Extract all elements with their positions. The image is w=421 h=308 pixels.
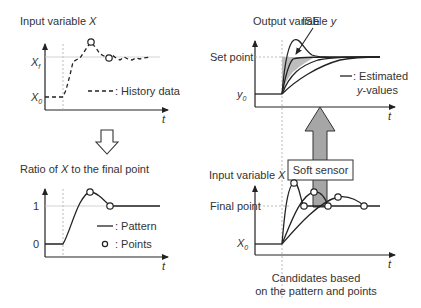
points-legend-label: : Points xyxy=(115,238,152,250)
candidate-peak-point xyxy=(311,189,317,195)
peak-point xyxy=(87,189,93,195)
down-arrow-icon xyxy=(96,130,118,154)
history-panel: Input variable X t Xf X0 : History data xyxy=(20,15,181,125)
candidate-curve-fast xyxy=(282,183,380,244)
candidate-peak-point xyxy=(335,194,341,200)
candidate-peak-point xyxy=(291,180,297,186)
x0-label: X0 xyxy=(30,91,42,105)
tick-1: 1 xyxy=(33,200,39,212)
history-title: Input variable X xyxy=(20,15,97,27)
candidates-caption-line2: on the pattern and points xyxy=(255,285,377,297)
x-axis-label: t xyxy=(388,110,392,122)
x0-label: X0 xyxy=(236,237,248,251)
settle-point xyxy=(107,203,113,209)
ratio-panel: Ratio of X to the final point t 1 0 : Pa… xyxy=(20,163,168,272)
candidate-settle-point xyxy=(301,203,307,209)
x-axis-label: t xyxy=(388,258,392,270)
x-axis-label: t xyxy=(162,113,166,125)
ratio-title: Ratio of X to the final point xyxy=(20,163,149,175)
xf-label: Xf xyxy=(30,56,41,70)
estimated-legend-label: : Estimated xyxy=(353,70,408,82)
ise-label: ISE xyxy=(302,15,320,27)
output-title: Output variable y xyxy=(253,15,338,27)
final-point-label: Final point xyxy=(210,200,261,212)
diagram-canvas: Input variable X t Xf X0 : History data … xyxy=(0,0,421,308)
setpoint-label: Set point xyxy=(210,51,253,63)
candidates-panel: Input variable X t Final point X0 Candid… xyxy=(209,169,395,297)
estimated-legend-label-2: y-values xyxy=(356,84,398,96)
tick-0: 0 xyxy=(33,238,39,250)
soft-sensor-block: Soft sensor xyxy=(288,107,353,207)
settle-point xyxy=(106,55,112,61)
output-panel: Output variable y ISE t Set point y0 : E… xyxy=(210,15,408,300)
candidate-settle-point xyxy=(325,203,331,209)
soft-sensor-up-arrow-icon xyxy=(305,107,335,207)
pattern-legend-label: : Pattern xyxy=(115,220,157,232)
history-legend-label: : History data xyxy=(115,85,181,97)
x-axis-label: t xyxy=(162,260,166,272)
soft-sensor-label: Soft sensor xyxy=(293,164,349,176)
candidate-curve-slow xyxy=(282,197,364,244)
candidates-caption-line1: Candidates based xyxy=(272,272,361,284)
peak-point xyxy=(88,39,94,45)
candidates-title: Input variable X xyxy=(209,169,286,181)
y0-label: y0 xyxy=(236,88,247,102)
points-legend-swatch xyxy=(102,241,107,246)
pattern-curve xyxy=(45,192,160,244)
candidate-settle-point xyxy=(361,203,367,209)
